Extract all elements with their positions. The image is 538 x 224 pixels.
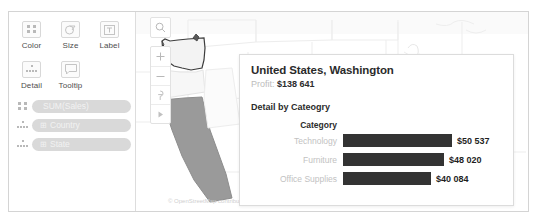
marks-button-color[interactable]: Color — [12, 18, 51, 50]
map-search-group[interactable] — [150, 17, 171, 38]
pill-country-label: Country — [50, 120, 80, 130]
color-squares-icon — [16, 102, 29, 111]
detail-dots-icon — [22, 61, 41, 78]
marks-button-color-label: Color — [22, 41, 42, 50]
tooltip-title: United States, Washington — [251, 64, 502, 76]
marks-button-detail[interactable]: Detail — [12, 58, 51, 90]
map-view[interactable]: © OpenStreetMap contributors United Stat… — [136, 12, 528, 211]
marks-pill-row-state[interactable]: ⊞ State — [9, 137, 135, 151]
marks-pill-row-sum-sales[interactable]: SUM(Sales) — [9, 99, 135, 113]
map-attribution[interactable]: © OpenStreetMap contributors — [168, 198, 249, 204]
marks-pill-row-country[interactable]: ⊞ Country — [9, 118, 135, 132]
marks-button-size-label: Size — [63, 41, 79, 50]
detail-dots-icon — [16, 140, 29, 149]
bar-mark — [343, 172, 431, 185]
color-squares-icon — [22, 21, 41, 38]
zoom-out-icon[interactable] — [151, 66, 170, 85]
bar-value-label: $40 084 — [436, 174, 469, 184]
tooltip-detail-title: Detail by Cateogry — [251, 102, 502, 112]
marks-card: Color Size — [9, 12, 136, 211]
marks-pill-list: SUM(Sales) ⊞ Country — [9, 99, 135, 151]
bar-row: Office Supplies$40 084 — [251, 170, 502, 187]
play-icon[interactable] — [151, 104, 170, 123]
marks-button-tooltip-label: Tooltip — [59, 81, 83, 90]
tooltip-category-header: Category — [251, 120, 343, 130]
pill-state-label: State — [50, 139, 70, 149]
map-zoom-group[interactable] — [150, 46, 171, 124]
pill-sum-sales-label: SUM(Sales) — [43, 101, 89, 111]
bar-value-label: $48 020 — [449, 155, 482, 165]
marks-button-row-2: Detail Tooltip — [9, 50, 135, 90]
pill-glyph: ⊞ — [40, 121, 47, 130]
screenshot-root: Color Size — [0, 0, 538, 224]
bar-mark — [343, 153, 444, 166]
marks-button-label[interactable]: Label — [90, 18, 129, 50]
bar-value-label: $50 537 — [457, 136, 490, 146]
label-text-icon — [100, 21, 119, 38]
detail-dots-icon — [16, 121, 29, 130]
zoom-in-icon[interactable] — [151, 47, 170, 66]
detail-bar-chart: Technology$50 537Furniture$48 020Office … — [251, 132, 502, 187]
pin-icon[interactable] — [151, 85, 170, 104]
marks-button-spacer — [90, 58, 129, 90]
bar-category-label: Office Supplies — [251, 174, 343, 184]
marks-button-label-label: Label — [99, 41, 119, 50]
marks-button-tooltip[interactable]: Tooltip — [51, 58, 90, 90]
bar-row: Furniture$48 020 — [251, 151, 502, 168]
pill-glyph: ⊞ — [40, 140, 47, 149]
tooltip-bubble-icon — [61, 61, 80, 78]
tooltip-profit-label: Profit: — [251, 79, 275, 89]
pill-sum-sales[interactable]: SUM(Sales) — [32, 100, 131, 113]
size-circle-icon — [61, 21, 80, 38]
marks-button-row-1: Color Size — [9, 12, 135, 50]
marks-button-size[interactable]: Size — [51, 18, 90, 50]
map-toolbar[interactable] — [150, 17, 171, 124]
map-tooltip: United States, Washington Profit: $138 6… — [239, 54, 514, 206]
tooltip-profit-value: $138 641 — [277, 79, 315, 89]
tooltip-profit-row: Profit: $138 641 — [251, 79, 502, 89]
bar-category-label: Technology — [251, 136, 343, 146]
search-icon[interactable] — [151, 18, 170, 37]
worksheet-frame: Color Size — [8, 11, 529, 212]
bar-row: Technology$50 537 — [251, 132, 502, 149]
bar-category-label: Furniture — [251, 155, 343, 165]
pill-state[interactable]: ⊞ State — [32, 138, 131, 151]
marks-button-detail-label: Detail — [21, 81, 42, 90]
pill-country[interactable]: ⊞ Country — [32, 119, 131, 132]
bar-mark — [343, 134, 452, 147]
